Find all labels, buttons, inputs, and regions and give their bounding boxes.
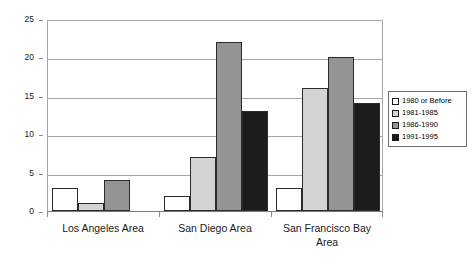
y-tick-label: 15: [25, 92, 34, 101]
legend-item: 1981-1985: [392, 107, 464, 119]
y-tick-label: 25: [25, 15, 34, 24]
legend-item: 1991-1995: [392, 131, 464, 143]
legend-swatch-icon: [392, 134, 399, 141]
y-tick-label: 10: [25, 130, 34, 139]
legend-item-label: 1991-1995: [402, 133, 438, 141]
x-tick-mark: [159, 212, 160, 217]
y-tick-mark: [39, 135, 43, 136]
bar-chart: 0510152025 Los Angeles AreaSan Diego Are…: [0, 0, 472, 265]
bar-group: [48, 21, 160, 211]
bar: [164, 196, 190, 211]
bar: [242, 111, 268, 211]
y-tick-mark: [39, 97, 43, 98]
y-tick-mark: [39, 212, 43, 213]
legend-item-label: 1986-1990: [402, 121, 438, 129]
plot-area: [47, 20, 383, 212]
legend-item: 1986-1990: [392, 119, 464, 131]
y-axis: 0510152025: [0, 0, 43, 232]
y-tick-label: 5: [29, 169, 34, 178]
y-tick-label: 20: [25, 53, 34, 62]
bar: [190, 157, 216, 211]
bar-group: [272, 21, 384, 211]
legend-item-label: 1980 or Before: [402, 97, 452, 105]
bars-layer: [48, 21, 382, 211]
bar: [216, 42, 242, 211]
x-category-label: San Francisco Bay Area: [271, 221, 383, 249]
bar: [328, 57, 354, 211]
bar: [52, 188, 78, 211]
bar: [104, 180, 130, 211]
x-tick-mark: [47, 212, 48, 217]
x-axis-ticks: [47, 212, 383, 218]
bar-group: [160, 21, 272, 211]
x-tick-mark: [271, 212, 272, 217]
legend-swatch-icon: [392, 98, 399, 105]
legend-swatch-icon: [392, 122, 399, 129]
y-tick-mark: [39, 58, 43, 59]
bar: [78, 203, 104, 211]
x-tick-mark: [382, 212, 383, 217]
bar: [276, 188, 302, 211]
legend-item-label: 1981-1985: [402, 109, 438, 117]
y-tick-mark: [39, 174, 43, 175]
y-tick-label: 0: [29, 207, 34, 216]
bar: [302, 88, 328, 211]
legend-swatch-icon: [392, 110, 399, 117]
x-axis-labels: Los Angeles AreaSan Diego AreaSan Franci…: [47, 221, 383, 265]
chart-legend: 1980 or Before1981-19851986-19901991-199…: [388, 91, 467, 147]
x-category-label: San Diego Area: [159, 221, 271, 235]
legend-item: 1980 or Before: [392, 95, 464, 107]
x-category-label: Los Angeles Area: [47, 221, 159, 235]
bar: [354, 103, 380, 211]
y-tick-mark: [39, 20, 43, 21]
